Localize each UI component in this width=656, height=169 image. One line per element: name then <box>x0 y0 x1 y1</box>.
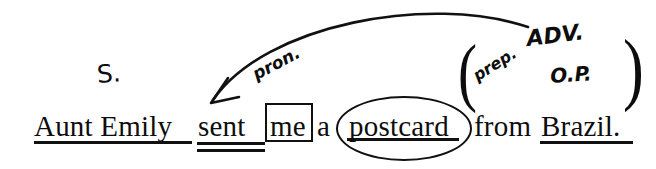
reference-arrow <box>0 0 656 169</box>
arrowhead-icon <box>211 78 239 103</box>
sentence-diagram-canvas: Aunt Emily sent me a postcard from Brazi… <box>0 0 656 169</box>
